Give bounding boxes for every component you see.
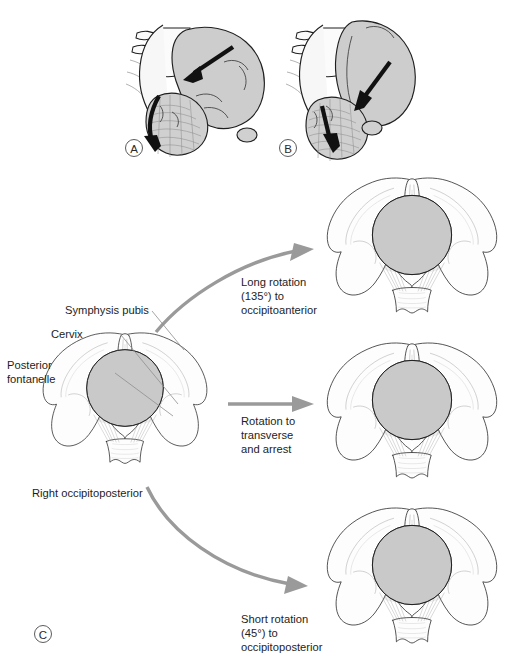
short-rotation-arrow	[147, 487, 308, 594]
label-right-occipitoposterior: Right occipitoposterior	[32, 487, 143, 499]
label-cervix: Cervix	[51, 328, 83, 340]
pelvis-view-occipitoposterior	[327, 508, 496, 643]
label-posterior-fontanelle-line1: Posterior	[7, 359, 52, 371]
obstetric-rotation-figure: A	[0, 0, 526, 667]
panel-letter-c-text: C	[39, 629, 47, 641]
transverse-rotation-arrow	[228, 396, 314, 412]
annotation-short-rotation-line3: occipitoposterior	[241, 641, 323, 653]
panel-a-lateral-view: A	[126, 25, 265, 157]
pelvis-view-transverse-arrest	[327, 343, 496, 478]
annotation-short-rotation: Short rotation (45°) to occipitoposterio…	[241, 613, 323, 653]
annotation-transverse-line2: transverse	[241, 429, 293, 441]
annotation-long-rotation-line2: (135°) to	[241, 290, 284, 302]
panel-letter-b: B	[280, 140, 297, 157]
fetal-buttock-a	[237, 128, 257, 142]
label-symphysis-pubis: Symphysis pubis	[65, 304, 149, 316]
annotation-long-rotation-line1: Long rotation	[241, 276, 306, 288]
fetal-buttock-b	[362, 121, 382, 135]
panel-letter-b-text: B	[284, 143, 292, 155]
annotation-long-rotation: Long rotation (135°) to occipitoanterior	[241, 276, 317, 316]
annotation-transverse-arrest: Rotation to transverse and arrest	[241, 415, 295, 455]
label-posterior-fontanelle-line2: fontanelle	[7, 373, 56, 385]
panel-letter-c: C	[35, 626, 52, 643]
figure-root: A	[0, 0, 526, 667]
annotation-transverse-line1: Rotation to	[241, 415, 295, 427]
annotation-short-rotation-line1: Short rotation	[241, 613, 308, 625]
panel-letter-a-text: A	[130, 143, 138, 155]
pelvis-view-occipitoanterior	[327, 178, 496, 313]
annotation-long-rotation-line3: occipitoanterior	[241, 304, 317, 316]
panel-b-lateral-view: B	[280, 21, 416, 161]
pelvis-view-right-occipitoposterior	[43, 333, 207, 464]
annotation-short-rotation-line2: (45°) to	[241, 627, 278, 639]
annotation-transverse-line3: and arrest	[241, 443, 292, 455]
panel-letter-a: A	[126, 140, 143, 157]
